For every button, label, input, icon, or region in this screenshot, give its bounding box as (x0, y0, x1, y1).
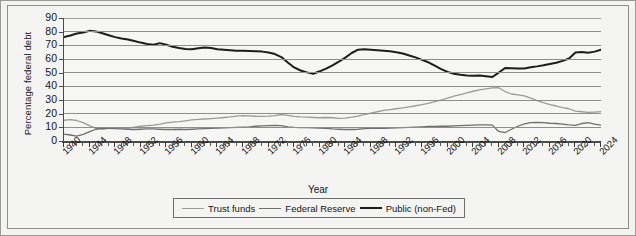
x-tick-minor (440, 142, 441, 146)
gridline (64, 45, 601, 46)
x-tick-minor (306, 142, 307, 146)
x-tick-minor (530, 142, 531, 146)
x-tick-minor (178, 142, 179, 146)
y-axis-title: Percentage federal debt (22, 14, 33, 154)
x-tick-minor (536, 142, 537, 146)
x-tick-minor (363, 142, 364, 146)
legend-swatch-federal-reserve (259, 208, 281, 209)
x-tick-minor (427, 142, 428, 146)
x-tick-minor (153, 142, 154, 146)
x-tick-minor (338, 142, 339, 146)
x-tick-minor (415, 142, 416, 146)
x-tick-minor (204, 142, 205, 146)
x-tick-minor (581, 142, 582, 146)
x-tick-minor (376, 142, 377, 146)
x-tick-minor (146, 142, 147, 146)
x-tick-minor (562, 142, 563, 146)
x-tick-minor (383, 142, 384, 146)
x-tick-minor (542, 142, 543, 146)
series-lines (64, 18, 601, 141)
series-line-federal-reserve (64, 122, 601, 136)
x-tick-minor (82, 142, 83, 146)
x-tick-minor (466, 142, 467, 146)
gridline (64, 127, 601, 128)
x-tick-minor (197, 142, 198, 146)
y-tick-label: 30 (35, 94, 57, 105)
x-tick-minor (485, 142, 486, 146)
x-tick-minor (300, 142, 301, 146)
x-tick-minor (229, 142, 230, 146)
chart-figure: Percentage federal debt 0102030405060708… (0, 0, 636, 236)
y-tick-label: 60 (35, 53, 57, 64)
gridline (64, 18, 601, 19)
x-tick-minor (504, 142, 505, 146)
x-tick-minor (121, 142, 122, 146)
x-tick-minor (568, 142, 569, 146)
series-line-public-non-fed (64, 31, 601, 77)
x-tick-minor (76, 142, 77, 146)
x-axis-title: Year (1, 184, 635, 195)
x-tick-minor (159, 142, 160, 146)
x-tick-minor (248, 142, 249, 146)
legend-label-trust-funds: Trust funds (208, 203, 255, 214)
x-tick-minor (332, 142, 333, 146)
gridline (64, 31, 601, 32)
x-tick-minor (517, 142, 518, 146)
x-tick-minor (184, 142, 185, 146)
x-tick-minor (434, 142, 435, 146)
x-tick-minor (325, 142, 326, 146)
x-tick-minor (453, 142, 454, 146)
x-tick-minor (312, 142, 313, 146)
y-tick-label: 10 (35, 121, 57, 132)
x-tick-minor (479, 142, 480, 146)
y-tick-label: 20 (35, 108, 57, 119)
x-tick-minor (236, 142, 237, 146)
x-tick-minor (69, 142, 70, 146)
legend-item-trust-funds: Trust funds (182, 203, 255, 214)
gridline (64, 86, 601, 87)
plot-area (63, 18, 601, 141)
gridline (64, 59, 601, 60)
legend-swatch-public-non-fed (360, 207, 382, 209)
x-tick-minor (402, 142, 403, 146)
legend-label-federal-reserve: Federal Reserve (285, 203, 355, 214)
x-tick-minor (261, 142, 262, 146)
y-tick-label: 90 (35, 12, 57, 23)
x-tick-minor (287, 142, 288, 146)
y-tick-label: 40 (35, 80, 57, 91)
legend-swatch-trust-funds (182, 208, 204, 209)
legend-label-public-non-fed: Public (non-Fed) (386, 203, 456, 214)
x-tick-minor (108, 142, 109, 146)
x-tick-minor (255, 142, 256, 146)
x-tick-minor (223, 142, 224, 146)
x-tick-minor (389, 142, 390, 146)
gridline (64, 100, 601, 101)
y-tick-label: 70 (35, 39, 57, 50)
x-tick-minor (491, 142, 492, 146)
y-tick-label: 50 (35, 67, 57, 78)
x-tick-minor (210, 142, 211, 146)
x-tick-minor (357, 142, 358, 146)
y-tick-label: 0 (35, 135, 57, 146)
y-tick-label: 80 (35, 26, 57, 37)
x-tick-minor (172, 142, 173, 146)
x-tick-minor (133, 142, 134, 146)
legend-item-federal-reserve: Federal Reserve (259, 203, 355, 214)
x-tick-minor (555, 142, 556, 146)
x-tick-minor (280, 142, 281, 146)
x-tick-minor (587, 142, 588, 146)
gridline (64, 113, 601, 114)
series-line-trust-funds (64, 88, 601, 130)
x-tick-minor (274, 142, 275, 146)
x-tick-minor (459, 142, 460, 146)
chart-legend: Trust funds Federal Reserve Public (non-… (173, 198, 465, 218)
legend-item-public-non-fed: Public (non-Fed) (360, 203, 456, 214)
x-tick-minor (95, 142, 96, 146)
x-tick-minor (101, 142, 102, 146)
x-tick-minor (408, 142, 409, 146)
x-tick-minor (511, 142, 512, 146)
x-tick-minor (351, 142, 352, 146)
x-tick-minor (127, 142, 128, 146)
gridline (64, 72, 601, 73)
x-tick-minor (594, 142, 595, 146)
